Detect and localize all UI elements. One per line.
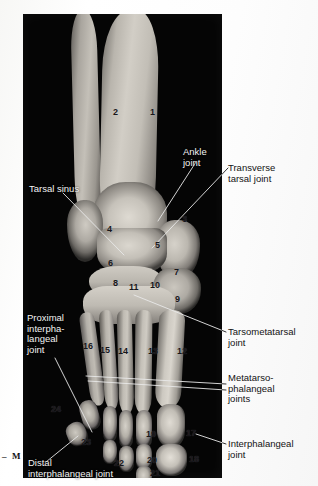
label-pip-line-1: Proximal	[27, 313, 65, 324]
bone-metatarsal-3	[117, 310, 135, 414]
label-pip-line-3: langeal	[27, 334, 65, 345]
callout-number-16: 16	[83, 342, 93, 351]
orientation-marker-dash: –	[2, 451, 7, 461]
label-dip-line-1: Distal	[28, 458, 113, 469]
label-tarsal-sinus-line-1: Tarsal sinus	[29, 184, 79, 195]
callout-number-20: 20	[147, 456, 157, 465]
callout-number-5: 5	[155, 241, 160, 250]
label-distal-interphalangeal-joint: Distal interphalangeal joint	[28, 458, 113, 479]
callout-number-22: 22	[114, 459, 124, 468]
callout-number-9: 9	[175, 295, 180, 304]
callout-number-7: 7	[174, 268, 179, 277]
callout-number-18: 18	[189, 455, 199, 464]
callout-number-13: 13	[148, 347, 158, 356]
bone-proximal-phalanx-3	[119, 410, 133, 448]
label-transverse-tarsal-line-2: tarsal joint	[228, 174, 275, 185]
label-metatarsophalangeal-joints: Metatarso- phalangeal joints	[228, 373, 275, 405]
label-ankle-joint: Ankle joint	[183, 147, 207, 168]
label-tarsometatarsal-line-2: joint	[228, 338, 296, 349]
callout-number-6: 6	[108, 259, 113, 268]
label-dip-line-2: interphalangeal joint	[28, 469, 113, 480]
label-ankle-joint-line-2: joint	[183, 158, 207, 169]
label-proximal-interphalangeal-joint: Proximal interpha- langeal joint	[27, 313, 65, 355]
label-ip-line-1: Interphalangeal	[228, 439, 294, 450]
label-transverse-tarsal-joint: Transverse tarsal joint	[228, 163, 275, 184]
callout-number-2: 2	[113, 108, 118, 117]
bone-proximal-phalanx-4	[103, 406, 117, 442]
callout-number-10: 10	[150, 281, 160, 290]
orientation-marker-medial: M	[12, 451, 21, 461]
label-mtp-line-1: Metatarso-	[228, 373, 275, 384]
label-transverse-tarsal-line-1: Transverse	[228, 163, 275, 174]
bone-distal-phalanx-1	[156, 444, 187, 476]
callout-number-11: 11	[129, 283, 139, 292]
label-ip-line-2: joint	[228, 450, 294, 461]
callout-number-3: 3	[182, 215, 187, 224]
bone-metatarsal-2	[135, 310, 153, 414]
callout-number-14: 14	[118, 347, 128, 356]
callout-number-15: 15	[100, 346, 110, 355]
label-tarsometatarsal-line-1: Tarsometatarsal	[228, 327, 296, 338]
bone-proximal-phalanx-1	[157, 404, 185, 448]
callout-number-23: 23	[81, 438, 91, 447]
bone-metatarsal-1	[154, 309, 185, 408]
callout-number-12: 12	[177, 347, 187, 356]
callout-number-19: 19	[146, 430, 156, 439]
callout-number-1: 1	[150, 108, 155, 117]
label-pip-line-4: joint	[27, 345, 65, 356]
callout-number-21: 21	[150, 469, 160, 478]
label-interphalangeal-joint: Interphalangeal joint	[228, 439, 294, 460]
label-ankle-joint-line-1: Ankle	[183, 147, 207, 158]
callout-number-8: 8	[113, 279, 118, 288]
callout-number-4: 4	[107, 225, 112, 234]
label-tarsal-sinus: Tarsal sinus	[29, 184, 79, 195]
label-tarsometatarsal-joint: Tarsometatarsal joint	[228, 327, 296, 348]
callout-number-17: 17	[186, 429, 196, 438]
callout-number-24: 24	[51, 405, 61, 414]
label-mtp-line-3: joints	[228, 394, 275, 405]
